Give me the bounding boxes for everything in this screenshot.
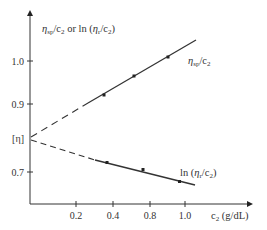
y-tick-label: 0.7: [12, 167, 25, 178]
chart-canvas: 1.0 0.9 [η] 0.7 0.2 0.4 0.8 1.0 ηsp/c2 o…: [0, 0, 267, 230]
upper-extrapolation-dashed: [31, 103, 88, 137]
y-tick-label: 0.9: [12, 99, 25, 110]
upper-series-label: ηsp/c2: [188, 55, 211, 68]
intercept-label: [η]: [12, 133, 24, 144]
lower-series-label: ln (ηr/c2): [180, 167, 217, 180]
x-tick-label: 0.4: [107, 210, 120, 221]
x-tick-label: 0.8: [144, 210, 157, 221]
x-tick-label: 0.2: [70, 210, 83, 221]
x-tick-label: 1.0: [179, 210, 192, 221]
y-axis-label: ηsp/c2 or ln (ηr/c2): [42, 23, 115, 36]
y-tick-label: 1.0: [12, 56, 25, 67]
x-axis-label: c2 (g/dL): [211, 210, 249, 223]
lower-extrapolation-dashed: [31, 140, 95, 160]
